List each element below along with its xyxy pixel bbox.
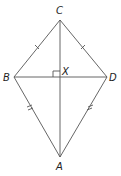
kite-diagram: C B D A X: [0, 0, 121, 176]
label-c: C: [56, 5, 63, 16]
label-d: D: [109, 72, 117, 83]
label-x: X: [61, 66, 70, 77]
label-b: B: [3, 72, 10, 83]
label-a: A: [55, 161, 63, 172]
right-angle-mark: [53, 71, 60, 77]
kite-outline: [14, 20, 107, 157]
